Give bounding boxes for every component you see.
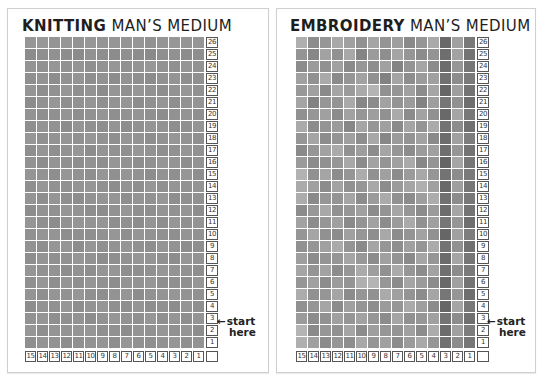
chart-cell: [193, 301, 204, 312]
chart-cell: [37, 37, 48, 48]
chart-cell: [296, 73, 307, 84]
chart-cell: [85, 37, 96, 48]
chart-cell: [356, 181, 367, 192]
chart-cell: [73, 85, 84, 96]
chart-cell: [440, 109, 451, 120]
chart-cell: [145, 205, 156, 216]
chart-cell: [356, 97, 367, 108]
chart-cell: [85, 229, 96, 240]
chart-cell: [392, 205, 403, 216]
chart-cell: [85, 181, 96, 192]
chart-cell: [464, 229, 475, 240]
chart-cell: [344, 49, 355, 60]
chart-cell: [296, 241, 307, 252]
chart-cell: [181, 133, 192, 144]
chart-cell: [37, 289, 48, 300]
chart-cell: [416, 181, 427, 192]
chart-cell: [416, 325, 427, 336]
chart-cell: [109, 337, 120, 348]
chart-cell: [121, 145, 132, 156]
row-number-label: 18: [477, 133, 489, 144]
chart-cell: [296, 109, 307, 120]
chart-cell: [157, 289, 168, 300]
chart-cell: [169, 37, 180, 48]
chart-cell: [428, 49, 439, 60]
chart-cell: [157, 109, 168, 120]
chart-cell: [145, 133, 156, 144]
chart-cell: [181, 265, 192, 276]
chart-cell: [464, 121, 475, 132]
chart-cell: [404, 253, 415, 264]
chart-cell: [380, 109, 391, 120]
chart-cell: [193, 121, 204, 132]
chart-cell: [97, 85, 108, 96]
chart-cell: [368, 301, 379, 312]
chart-cell: [296, 145, 307, 156]
chart-cell: [392, 121, 403, 132]
chart-cell: [332, 313, 343, 324]
chart-cell: [85, 133, 96, 144]
chart-cell: [320, 49, 331, 60]
chart-cell: [109, 133, 120, 144]
row-number-label: 15: [206, 169, 218, 180]
chart-cell: [37, 133, 48, 144]
chart-cell: [49, 217, 60, 228]
chart-cell: [356, 37, 367, 48]
chart-cell: [440, 301, 451, 312]
chart-cell: [380, 133, 391, 144]
chart-cell: [464, 37, 475, 48]
chart-cell: [368, 325, 379, 336]
chart-cell: [85, 217, 96, 228]
chart-cell: [25, 253, 36, 264]
chart-cell: [464, 289, 475, 300]
chart-cell: [296, 301, 307, 312]
chart-cell: [356, 265, 367, 276]
chart-cell: [404, 325, 415, 336]
chart-cell: [332, 157, 343, 168]
chart-cell: [404, 193, 415, 204]
chart-cell: [181, 253, 192, 264]
chart-cell: [392, 229, 403, 240]
chart-cell: [61, 253, 72, 264]
chart-cell: [416, 169, 427, 180]
chart-cell: [464, 133, 475, 144]
chart-cell: [49, 109, 60, 120]
row-number-label: 12: [477, 205, 489, 216]
chart-cell: [73, 97, 84, 108]
chart-cell: [332, 109, 343, 120]
chart-cell: [368, 265, 379, 276]
chart-cell: [133, 289, 144, 300]
chart-cell: [97, 145, 108, 156]
chart-cell: [296, 229, 307, 240]
chart-cell: [368, 193, 379, 204]
chart-cell: [332, 169, 343, 180]
row-number-label: 20: [206, 109, 218, 120]
chart-cell: [25, 241, 36, 252]
chart-cell: [356, 289, 367, 300]
column-number-label: 6: [133, 351, 144, 362]
chart-cell: [133, 145, 144, 156]
chart-cell: [169, 229, 180, 240]
chart-cell: [109, 73, 120, 84]
chart-cell: [169, 169, 180, 180]
chart-cell: [61, 49, 72, 60]
chart-cell: [85, 313, 96, 324]
chart-cell: [73, 205, 84, 216]
chart-cell: [368, 109, 379, 120]
chart-cell: [25, 277, 36, 288]
chart-cell: [193, 289, 204, 300]
chart-cell: [296, 121, 307, 132]
chart-cell: [145, 109, 156, 120]
embroidery-title-rest: MAN’S MEDIUM: [405, 17, 531, 35]
chart-cell: [49, 325, 60, 336]
chart-cell: [356, 313, 367, 324]
chart-cell: [145, 289, 156, 300]
chart-cell: [404, 217, 415, 228]
chart-cell: [368, 97, 379, 108]
chart-cell: [356, 205, 367, 216]
chart-cell: [73, 217, 84, 228]
chart-cell: [85, 49, 96, 60]
chart-cell: [452, 205, 463, 216]
chart-cell: [416, 37, 427, 48]
chart-cell: [85, 97, 96, 108]
